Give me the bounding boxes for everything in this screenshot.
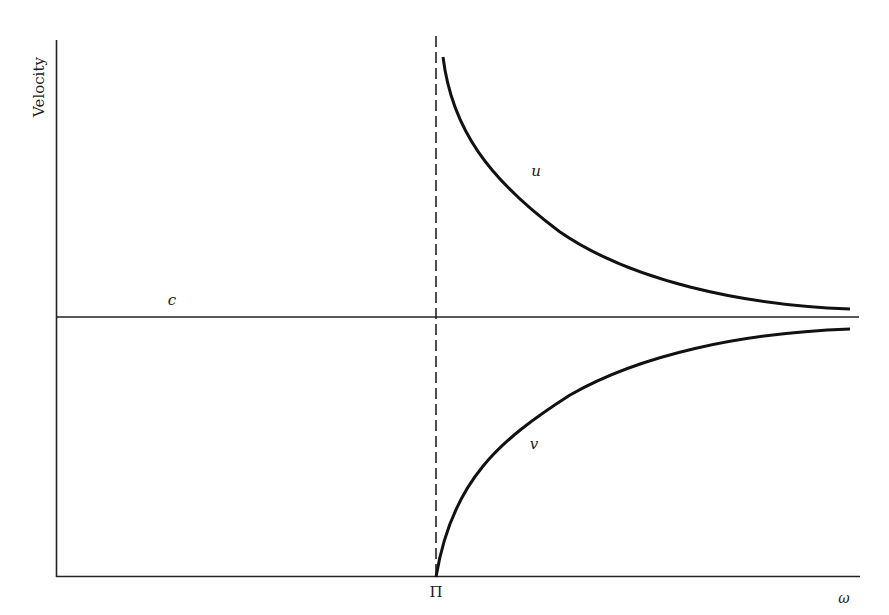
x-axis-label: ω xyxy=(838,590,850,606)
y-axis-label: Velocity xyxy=(30,57,48,118)
c-label: c xyxy=(168,291,177,309)
velocity-diagram: Velocity c u v Π ω xyxy=(0,0,889,615)
pi-tick-label: Π xyxy=(429,583,442,601)
v-label: v xyxy=(530,435,539,453)
u-curve xyxy=(443,57,850,309)
u-label: u xyxy=(531,162,541,180)
v-curve xyxy=(436,329,850,577)
